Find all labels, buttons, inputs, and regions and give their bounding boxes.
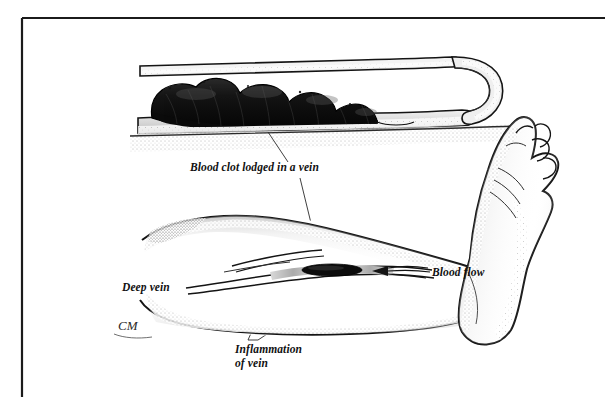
label-deep-vein: Deep vein bbox=[121, 281, 170, 294]
illustration-figure: Blood clot lodged in a vein Deep vein Bl… bbox=[0, 0, 605, 397]
vein-cross-section-inset bbox=[130, 57, 524, 152]
illustration-canvas: Blood clot lodged in a vein Deep vein Bl… bbox=[0, 0, 605, 397]
label-inflammation-line1: Inflammation bbox=[234, 343, 302, 356]
artist-signature-text: CM bbox=[118, 318, 139, 333]
label-blood-clot: Blood clot lodged in a vein bbox=[189, 161, 319, 174]
signature-flourish bbox=[114, 334, 152, 338]
artist-signature: CM bbox=[114, 318, 152, 338]
foot-outline bbox=[455, 110, 570, 355]
label-inflammation-line2: of vein bbox=[235, 357, 268, 370]
label-blood-flow: Blood flow bbox=[431, 266, 485, 279]
leg-outline bbox=[138, 214, 499, 346]
leg-blood-clot-highlight bbox=[308, 265, 344, 270]
